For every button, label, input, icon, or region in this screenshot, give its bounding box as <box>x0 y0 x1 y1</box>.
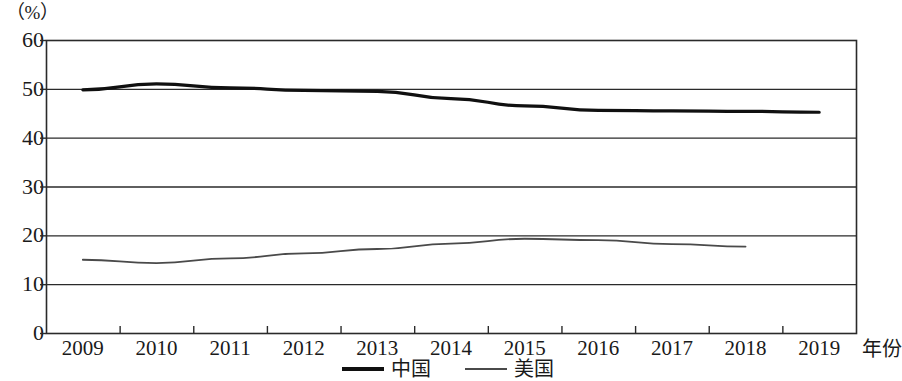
x-axis-tick-label: 2014 <box>414 336 488 360</box>
x-axis-tick-label: 2019 <box>782 336 856 360</box>
x-axis-tick-label: 2012 <box>267 336 341 360</box>
chart-legend: 中国美国 <box>0 358 896 380</box>
x-axis-tick-label: 2018 <box>709 336 783 360</box>
legend-line-swatch-icon <box>465 368 507 370</box>
legend-item: 中国 <box>342 358 431 380</box>
x-axis-tick-label: 2010 <box>120 336 194 360</box>
legend-line-swatch-icon <box>342 367 384 371</box>
x-axis-tick-label: 2009 <box>46 336 120 360</box>
x-axis-tick-label: 2011 <box>193 336 267 360</box>
legend-label: 中国 <box>391 358 431 380</box>
legend-item: 美国 <box>465 358 554 380</box>
x-axis-tick-label: 2016 <box>561 336 635 360</box>
x-axis-tick-label: 2015 <box>488 336 562 360</box>
x-axis-tick-label: 2017 <box>635 336 709 360</box>
x-axis-tick-label: 2013 <box>341 336 415 360</box>
legend-label: 美国 <box>514 358 554 380</box>
